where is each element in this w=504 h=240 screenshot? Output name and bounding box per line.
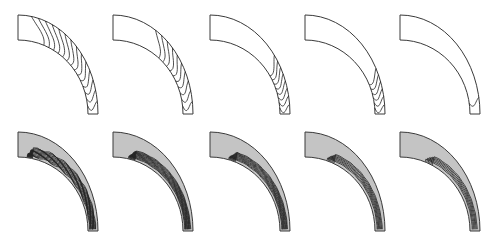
domain-outline xyxy=(400,132,480,231)
contour-panel xyxy=(210,132,290,231)
top-row xyxy=(18,15,480,114)
contour-panel xyxy=(400,132,480,231)
contour-panel xyxy=(305,15,385,114)
contour-panel xyxy=(113,15,193,114)
bottom-row xyxy=(18,132,480,231)
domain-outline xyxy=(113,132,193,231)
domain-outline xyxy=(210,132,290,231)
contour-panel xyxy=(210,15,290,114)
contour-panel xyxy=(18,132,98,231)
contour-panel xyxy=(18,15,98,114)
domain-outline xyxy=(305,132,385,231)
contour-panel xyxy=(400,15,480,114)
contour-panel xyxy=(305,132,385,231)
figure-canvas xyxy=(0,0,504,240)
domain-outline xyxy=(18,132,98,231)
domain-outline xyxy=(210,15,290,114)
domain-outline xyxy=(305,15,385,114)
domain-outline xyxy=(400,15,480,114)
contour-figure xyxy=(0,0,504,240)
contour-panel xyxy=(113,132,193,231)
